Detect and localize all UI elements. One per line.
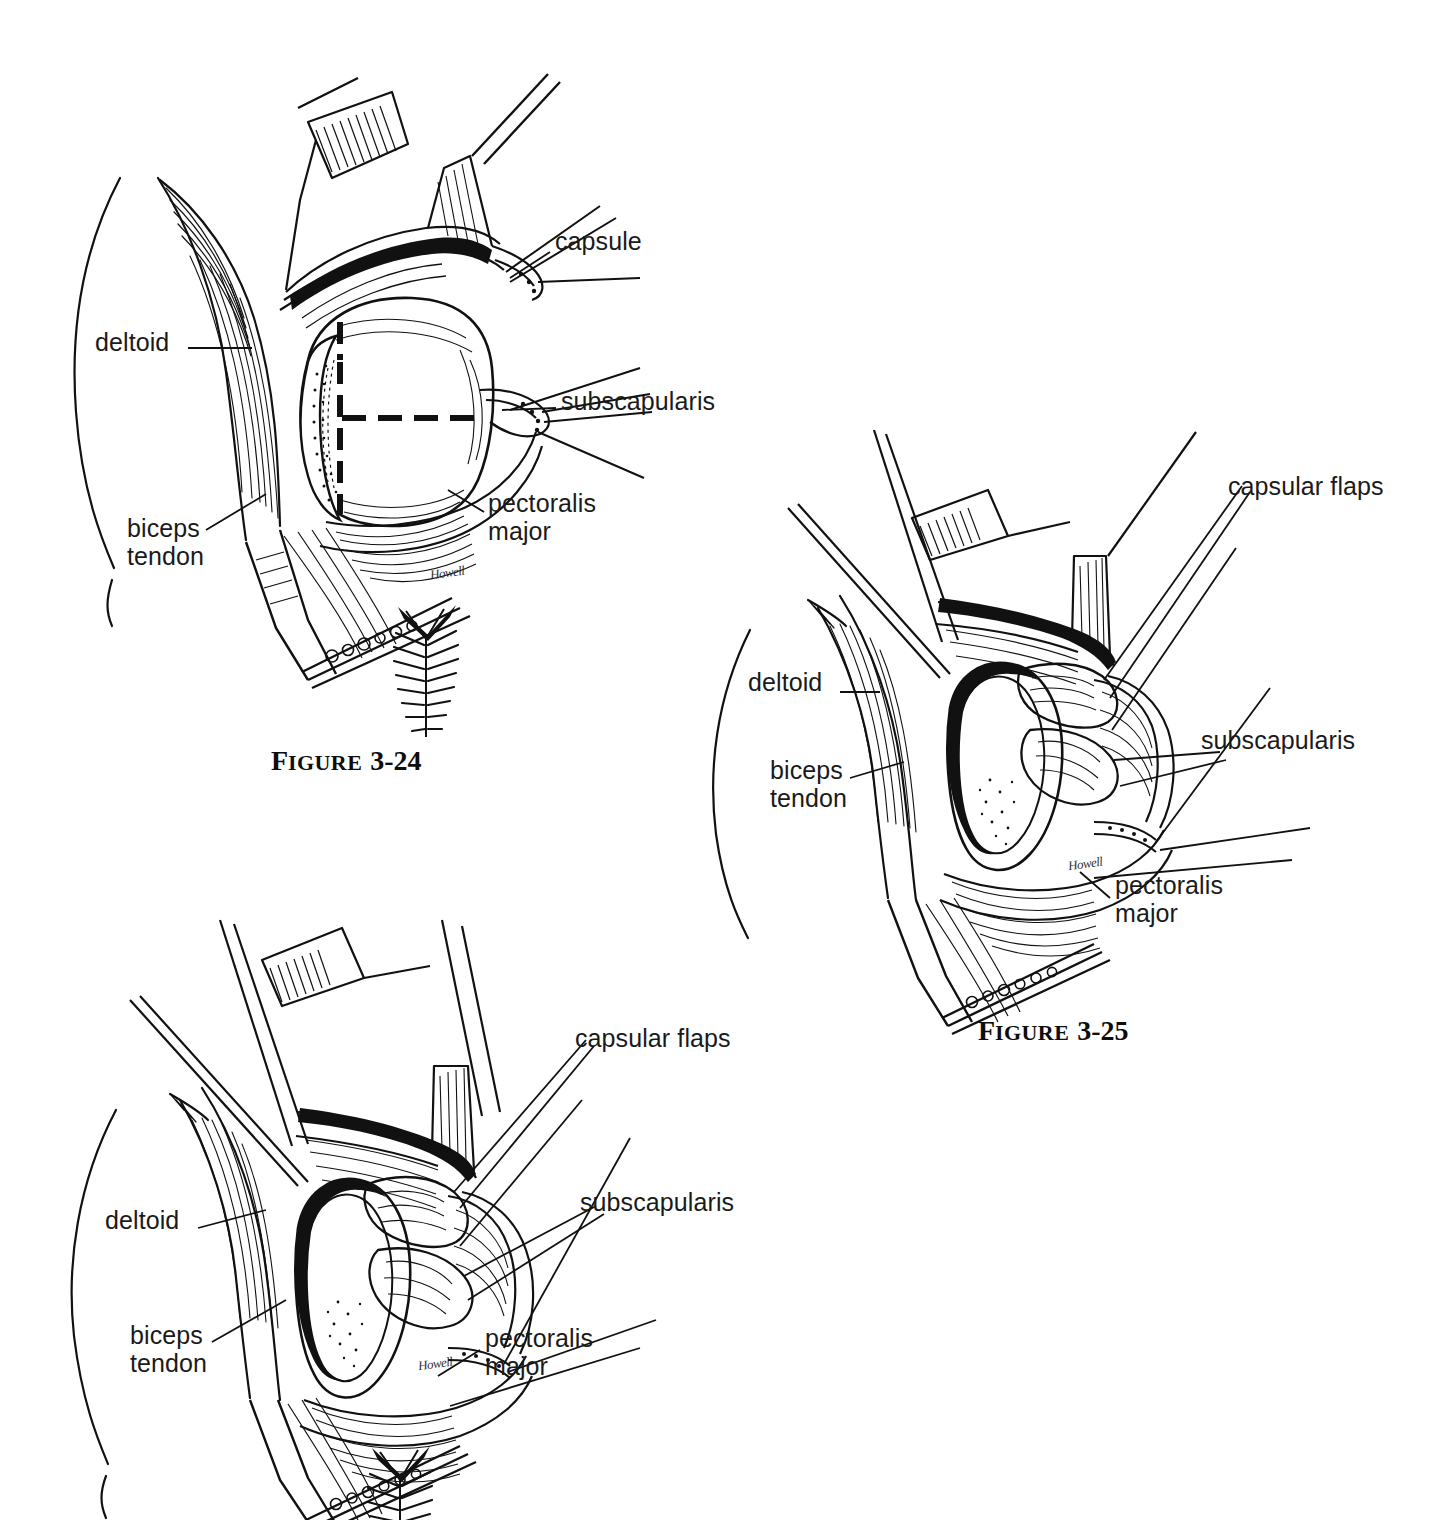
caption-number: 3-24: [370, 745, 421, 776]
figure-3-25-caption: FIGURE3-25: [962, 997, 1129, 1065]
label-biceps-tendon: biceps tendon: [770, 756, 847, 812]
label-biceps-tendon: biceps tendon: [130, 1321, 207, 1377]
label-capsular-flaps: capsular flaps: [575, 1024, 731, 1053]
label-subscapularis: subscapularis: [1201, 726, 1355, 755]
caption-word-rest: IGURE: [288, 750, 362, 775]
label-pectoralis-major: pectoralis major: [488, 489, 596, 545]
label-capsular-flaps: capsular flaps: [1228, 472, 1384, 501]
label-capsule: capsule: [555, 227, 642, 256]
figure-3-24: deltoid capsule subscapularis pectoralis…: [40, 60, 740, 760]
figure-3-26: capsular flaps subscapularis deltoid bic…: [30, 920, 770, 1520]
caption-number: 3-25: [1077, 1015, 1128, 1046]
label-deltoid: deltoid: [95, 328, 169, 357]
caption-word-initial: F: [978, 1015, 995, 1046]
label-biceps-tendon: biceps tendon: [127, 514, 204, 570]
label-deltoid: deltoid: [105, 1206, 179, 1235]
label-pectoralis-major: pectoralis major: [485, 1324, 593, 1380]
label-deltoid: deltoid: [748, 668, 822, 697]
figure-3-24-caption: FIGURE3-24: [255, 727, 422, 795]
label-pectoralis-major: pectoralis major: [1115, 871, 1223, 927]
label-subscapularis: subscapularis: [580, 1188, 734, 1217]
label-subscapularis: subscapularis: [561, 387, 715, 416]
figure-3-25: capsular flaps subscapularis deltoid bic…: [690, 430, 1430, 1050]
caption-word-rest: IGURE: [995, 1020, 1069, 1045]
caption-word-initial: F: [271, 745, 288, 776]
